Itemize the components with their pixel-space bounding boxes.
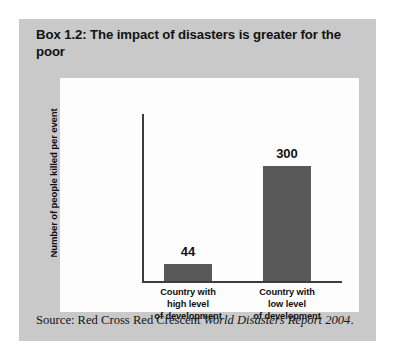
box-title: Box 1.2: The impact of disasters is grea… xyxy=(36,27,354,60)
source-prefix: Source: Red Cross Red Crescent xyxy=(36,313,204,327)
bar-country-low-development xyxy=(263,166,311,281)
bar-value-label: 44 xyxy=(164,244,212,259)
page-canvas: Box 1.2: The impact of disasters is grea… xyxy=(0,0,394,353)
category-line: low level xyxy=(235,299,339,311)
x-axis-line xyxy=(142,281,342,283)
bar-country-high-development xyxy=(164,264,212,281)
source-caption: Source: Red Cross Red Crescent World Dis… xyxy=(36,313,366,328)
category-line: Country with xyxy=(235,287,339,299)
chart-plot-area: Number of people killed per event 44 300… xyxy=(60,78,359,312)
bar-value-label: 300 xyxy=(263,146,311,161)
y-axis-label: Number of people killed per event xyxy=(48,108,62,258)
category-line: Country with xyxy=(136,287,240,299)
box-panel: Box 1.2: The impact of disasters is grea… xyxy=(19,19,376,341)
category-line: high level xyxy=(136,299,240,311)
source-publication: World Disasters Report 2004 xyxy=(204,313,351,327)
source-suffix: . xyxy=(350,313,353,327)
y-axis-line xyxy=(142,114,144,282)
